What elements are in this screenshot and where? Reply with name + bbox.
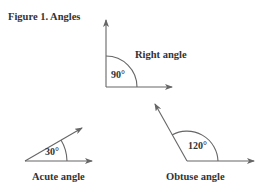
obtuse-angle-shape: [155, 104, 254, 161]
angles-diagram: [0, 0, 270, 195]
obtuse-angle-degrees: 120°: [188, 140, 207, 151]
obtuse-angle-label: Obtuse angle: [166, 171, 225, 182]
right-angle-degrees: 90°: [111, 69, 125, 80]
right-angle-label: Right angle: [135, 49, 187, 60]
acute-angle-label: Acute angle: [32, 171, 85, 182]
acute-angle-degrees: 30°: [45, 146, 59, 157]
